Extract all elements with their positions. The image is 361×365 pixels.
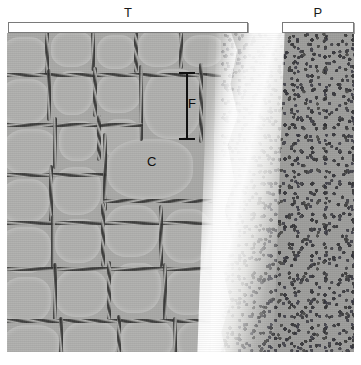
follicle-septum <box>91 33 95 71</box>
follicle <box>121 319 173 352</box>
follicle <box>7 277 51 323</box>
follicle <box>59 121 97 161</box>
bracket-label-parathyroid: P <box>282 6 354 19</box>
follicle <box>55 219 101 263</box>
follicle-septum <box>117 315 121 352</box>
follicle-septum <box>179 33 183 69</box>
bracket-label-thyroid: T <box>0 6 256 19</box>
follicle <box>7 325 59 352</box>
follicle <box>7 79 49 125</box>
follicle-septum <box>93 67 97 117</box>
follicle <box>63 321 117 352</box>
follicle-septum <box>101 203 105 267</box>
follicle-septum <box>47 69 51 121</box>
follicle <box>97 73 141 113</box>
follicle-septum <box>7 123 143 127</box>
bracket-bar-thyroid <box>8 22 248 33</box>
follicle-septum <box>103 199 213 203</box>
follicle-septum <box>173 317 177 352</box>
follicle-septum <box>53 263 57 321</box>
follicle-colloid-labeled <box>107 139 193 199</box>
annotation-label-follicle: F <box>188 97 196 110</box>
follicle <box>138 33 182 67</box>
follicle <box>7 37 47 77</box>
follicle-septum <box>139 65 143 141</box>
micrograph-image: F C <box>7 33 354 352</box>
follicle-septum <box>159 205 163 267</box>
figure-panel: T P <box>0 0 361 365</box>
follicle-septum <box>7 173 107 177</box>
follicle-septum <box>107 261 111 321</box>
follicle-septum <box>134 33 138 73</box>
follicle-septum <box>97 115 101 161</box>
follicle-septum <box>53 117 57 169</box>
follicle-septum <box>163 263 167 321</box>
follicle <box>7 179 49 223</box>
capsule-band <box>197 33 285 352</box>
follicle <box>97 35 135 69</box>
measurement-tick-top <box>179 72 195 74</box>
follicle <box>51 33 93 67</box>
follicle <box>105 205 159 257</box>
follicle-septum <box>7 221 215 225</box>
follicle <box>55 269 107 317</box>
follicle-septum <box>59 317 63 352</box>
follicle-septum <box>199 63 203 143</box>
measurement-tick-bottom <box>179 138 195 140</box>
follicle-septum <box>7 267 217 271</box>
follicle <box>53 71 93 115</box>
annotation-label-colloid: C <box>147 155 156 168</box>
bracket-bar-parathyroid <box>282 22 354 33</box>
